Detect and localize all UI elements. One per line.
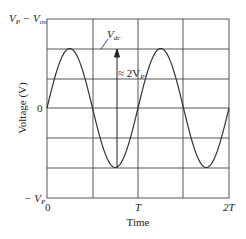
vdc-leader xyxy=(101,39,108,49)
y-axis-title: Voltage (V) xyxy=(16,82,29,134)
approx-2vp-label: ≈ 2VP xyxy=(118,67,145,81)
y-zero-label: 0 xyxy=(37,102,43,114)
x-zero-label: 0 xyxy=(45,201,51,213)
chart: VP − Von Vdc ≈ 2VP 0 − VP 0 T 2T Time Vo… xyxy=(0,0,246,239)
x-2T-label: 2T xyxy=(223,201,236,213)
vdc-label: Vdc xyxy=(107,28,121,42)
x-T-label: T xyxy=(135,201,142,213)
y-neg-vp-label: − VP xyxy=(24,192,46,206)
x-axis-title: Time xyxy=(127,216,150,228)
y-top-label: VP − Von xyxy=(9,12,47,26)
